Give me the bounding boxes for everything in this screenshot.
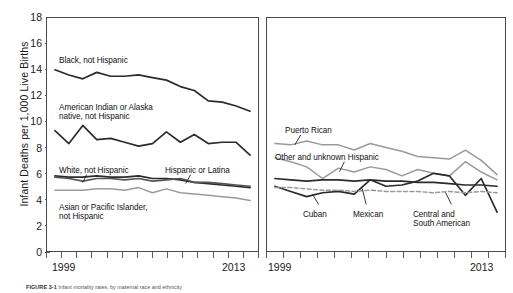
series-annotation-label: Central and South American — [413, 210, 470, 229]
series-annotation-label: American Indian or Alaska native, not Hi… — [59, 103, 153, 122]
y-tick-label: 6 — [36, 168, 42, 180]
x-tick-mark — [167, 252, 168, 258]
x-tick-mark — [182, 252, 183, 258]
x-tick-mark — [91, 252, 92, 258]
series-line — [275, 179, 497, 187]
chart-panel-race: Black, not HispanicAmerican Indian or Al… — [46, 17, 259, 252]
x-tick-mark — [258, 252, 259, 258]
x-tick-mark — [61, 252, 62, 258]
x-tick-mark — [266, 252, 267, 258]
series-line — [55, 188, 250, 201]
figure-infant-mortality: Infant Deaths per 1,000 Live Births 1816… — [0, 0, 513, 293]
y-tick-label: 10 — [30, 115, 42, 127]
x-tick-mark — [437, 252, 438, 258]
x-axis-ticks-left — [46, 252, 259, 259]
series-annotation-label: Asian or Pacific Islander, not Hispanic — [59, 203, 147, 222]
x-tick-mark — [122, 252, 123, 258]
x-tick-mark — [76, 252, 77, 258]
series-annotation-label: Cuban — [303, 210, 327, 219]
y-tick-label: 2 — [36, 220, 42, 232]
chart-panel-hispanic-origin: Puerto RicanOther and unknown HispanicCu… — [266, 17, 506, 252]
y-tick-label: 18 — [30, 11, 42, 23]
series-line — [55, 125, 250, 155]
series-annotation-label: White, not Hispanic — [59, 166, 129, 175]
figure-caption-text: Infant mortality rates, by maternal race… — [58, 284, 182, 290]
y-tick-label: 12 — [30, 89, 42, 101]
x-tick-mark — [488, 252, 489, 258]
x-tick-mark — [454, 252, 455, 258]
y-tick-label: 4 — [36, 194, 42, 206]
y-tick-label: 0 — [36, 246, 42, 258]
x-tick-mark — [351, 252, 352, 258]
x-tick-mark — [403, 252, 404, 258]
x-tick-mark — [283, 252, 284, 258]
x-tick-mark — [317, 252, 318, 258]
y-tick-label: 16 — [30, 37, 42, 49]
x-axis-end-label-left: 2013 — [222, 261, 245, 273]
x-tick-mark — [213, 252, 214, 258]
x-axis-start-label-right: 1999 — [268, 261, 291, 273]
series-annotation-label: Black, not Hispanic — [59, 56, 128, 65]
series-annotation-label: Mexican — [353, 210, 383, 219]
x-tick-mark — [368, 252, 369, 258]
series-annotation-label: Other and unknown Hispanic — [275, 153, 379, 162]
series-line — [275, 188, 497, 193]
x-tick-mark — [386, 252, 387, 258]
y-axis-ticks: 181614121086420 — [20, 0, 42, 293]
series-annotation-label: Puerto Rican — [285, 126, 332, 135]
x-tick-mark — [334, 252, 335, 258]
x-tick-mark — [152, 252, 153, 258]
x-tick-mark — [505, 252, 506, 258]
x-tick-mark — [107, 252, 108, 258]
x-axis-start-label-left: 1999 — [52, 261, 75, 273]
x-tick-mark — [46, 252, 47, 258]
x-axis-ticks-right — [266, 252, 506, 259]
x-tick-mark — [420, 252, 421, 258]
x-tick-mark — [300, 252, 301, 258]
y-tick-label: 8 — [36, 142, 42, 154]
x-tick-mark — [243, 252, 244, 258]
x-tick-mark — [471, 252, 472, 258]
y-tick-label: 14 — [30, 63, 42, 75]
figure-caption: FIGURE 3-1 Infant mortality rates, by ma… — [26, 284, 496, 291]
x-tick-mark — [228, 252, 229, 258]
x-axis-end-label-right: 2013 — [470, 261, 493, 273]
x-tick-mark — [137, 252, 138, 258]
series-annotation-label: Hispanic or Latina — [165, 166, 230, 175]
x-tick-mark — [197, 252, 198, 258]
figure-caption-number: FIGURE 3-1 — [26, 284, 57, 290]
